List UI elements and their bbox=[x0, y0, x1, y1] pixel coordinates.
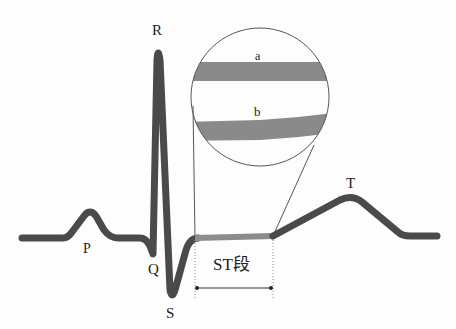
label-q: Q bbox=[148, 261, 159, 277]
ecg-svg: R P Q S T ST段 a b bbox=[0, 0, 456, 329]
label-t: T bbox=[346, 175, 355, 191]
st-measure-dot-right bbox=[269, 286, 273, 290]
label-r: R bbox=[152, 22, 162, 38]
label-st-segment: ST段 bbox=[213, 255, 250, 274]
ecg-diagram: R P Q S T ST段 a b bbox=[0, 0, 456, 329]
st-measure-dot-left bbox=[195, 286, 199, 290]
label-s: S bbox=[166, 305, 174, 321]
magnifier-connector-left bbox=[193, 106, 195, 238]
ecg-trace-t bbox=[273, 197, 437, 236]
label-band-b: b bbox=[254, 104, 261, 119]
ecg-trace-pqrs bbox=[22, 53, 198, 295]
label-band-a: a bbox=[255, 49, 261, 63]
st-segment-trace bbox=[195, 236, 273, 238]
label-p: P bbox=[83, 241, 91, 256]
